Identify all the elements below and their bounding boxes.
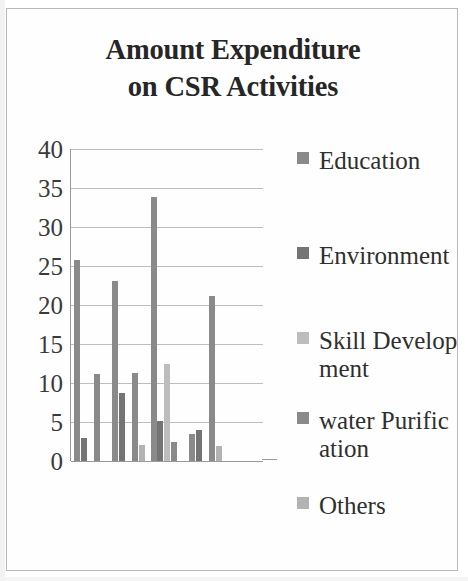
bar-2019-20-water-purification[interactable] [209,296,215,461]
bar-2016-17-environment[interactable] [81,438,87,461]
legend-label: Others [319,492,458,520]
bar-2019-20-education[interactable] [189,434,195,461]
y-axis-tick-20: 20 [11,293,63,318]
y-axis-tick-25: 25 [11,254,63,279]
y-axis-tick-35: 35 [11,176,63,201]
bar-2019-20-environment[interactable] [196,430,202,461]
legend-item-environment[interactable]: Environment [297,242,458,270]
plot-area [70,149,263,461]
bar-2017-18-education[interactable] [112,281,118,461]
legend-label: Skill Development [319,327,458,383]
bar-group-2017-18 [109,149,147,461]
bar-2018-19-water-purification[interactable] [171,442,177,461]
y-axis-tick-30: 30 [11,215,63,240]
scan-edge-left [0,0,5,581]
chart-title-line-2: on CSR Activities [7,68,458,105]
legend-label: water Purification [319,407,458,463]
bars-layer [71,149,263,461]
bar-2018-19-education[interactable] [151,197,157,461]
bar-2017-18-others[interactable] [139,445,145,461]
bar-2018-19-environment[interactable] [157,421,163,461]
chart-title: Amount Expenditure on CSR Activities [7,31,458,105]
bar-group-2020-21 [225,149,263,461]
legend-item-skill-development[interactable]: Skill Development [297,327,458,383]
legend-swatch-icon [297,247,309,259]
bar-group-2019-20 [186,149,224,461]
chart-title-line-1: Amount Expenditure [7,31,458,68]
legend-item-education[interactable]: Education [297,147,458,175]
bar-group-2016-17 [71,149,109,461]
legend-swatch-icon [297,152,309,164]
bar-2016-17-education[interactable] [74,260,80,461]
y-axis-tick-10: 10 [11,371,63,396]
legend-swatch-icon [297,332,309,344]
bar-2017-18-environment[interactable] [119,393,125,461]
bar-group-2018-19 [148,149,186,461]
axis-extension [262,459,277,460]
y-axis: 4035302520151050 [11,139,63,459]
legend-label: Environment [319,242,458,270]
bar-2018-19-skill-development[interactable] [164,364,170,461]
legend-swatch-icon [297,497,309,509]
bar-2017-18-water-purification[interactable] [132,373,138,461]
bar-2016-17-water-purification[interactable] [94,374,100,461]
y-axis-tick-15: 15 [11,332,63,357]
chart-container: Amount Expenditure on CSR Activities 403… [6,8,458,571]
scan-edge-bottom [0,577,468,581]
y-axis-tick-0: 0 [11,449,63,474]
legend-item-others[interactable]: Others [297,492,458,520]
gridline-0 [71,461,263,462]
bar-2019-20-others[interactable] [216,446,222,461]
y-axis-tick-5: 5 [11,410,63,435]
legend-item-water-purification[interactable]: water Purification [297,407,458,463]
legend-label: Education [319,147,458,175]
legend-swatch-icon [297,412,309,424]
y-axis-tick-40: 40 [11,137,63,162]
